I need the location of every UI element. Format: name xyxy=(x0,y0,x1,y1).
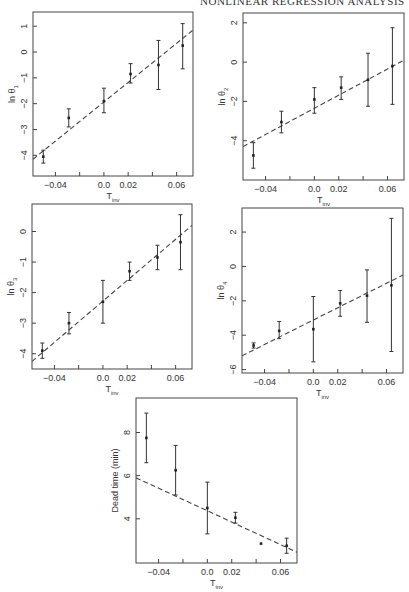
x-tick-label: 0.06 xyxy=(378,377,396,387)
y-tick-label: −4 xyxy=(19,150,29,160)
data-point xyxy=(285,544,288,547)
data-point xyxy=(339,302,342,305)
plot-frame xyxy=(243,13,404,180)
data-point xyxy=(312,328,315,331)
y-axis-label-subscript: 3 xyxy=(12,277,18,281)
x-tick-label: 0.0 xyxy=(308,184,321,194)
data-point xyxy=(157,64,160,67)
y-tick-label: −6 xyxy=(228,364,238,374)
data-point xyxy=(128,270,131,273)
y-axis-label: Dead time (min) xyxy=(110,448,120,512)
y-tick-label: −2 xyxy=(229,96,239,106)
y-axis-label-subscript: 1 xyxy=(13,84,19,88)
x-axis-label-subscript: inv xyxy=(215,584,223,590)
y-tick-label: −4 xyxy=(229,136,239,146)
data-point xyxy=(313,98,316,101)
regression-fit-line xyxy=(243,60,404,146)
data-point xyxy=(67,117,70,120)
x-tick-label: 0.06 xyxy=(168,180,186,190)
x-axis-label: Tinv xyxy=(317,195,330,207)
y-tick-label: 0 xyxy=(18,229,28,234)
panel-theta3: −0.040.00.020.060−1−2−3−4Tinvln θ3 xyxy=(6,204,192,396)
data-point xyxy=(42,155,45,158)
x-tick-label: 0.02 xyxy=(330,184,348,194)
data-point xyxy=(206,507,209,510)
regression-fit-line xyxy=(32,225,192,361)
data-point xyxy=(103,100,106,103)
y-tick-label: −4 xyxy=(18,349,28,359)
data-point xyxy=(260,542,263,545)
y-tick-label: 0 xyxy=(229,60,239,65)
y-tick-label: −1 xyxy=(18,257,28,267)
x-axis-label-subscript: inv xyxy=(111,390,119,396)
data-point xyxy=(252,154,255,157)
regression-fit-line xyxy=(136,478,297,552)
figure-canvas: −0.040.00.020.0610−1−2−3−4Tinvln θ1−0.04… xyxy=(0,0,409,592)
x-tick-label: 0.02 xyxy=(223,567,241,577)
x-tick-label: −0.04 xyxy=(254,184,277,194)
panel-theta2: −0.040.00.020.0620−2−4Tinvln θ2 xyxy=(217,13,404,207)
data-point xyxy=(129,73,132,76)
y-tick-label: −1 xyxy=(19,73,29,83)
data-point xyxy=(179,241,182,244)
plot-frame xyxy=(32,204,192,369)
data-point xyxy=(41,349,44,352)
panel-deadtime: −0.040.00.020.06864TinvDead time (min) xyxy=(110,398,297,590)
regression-fit-line xyxy=(242,275,403,356)
plot-frame xyxy=(242,208,403,373)
y-tick-label: 0 xyxy=(228,264,238,269)
data-point xyxy=(181,44,184,47)
x-tick-label: −0.04 xyxy=(253,377,276,387)
y-tick-label: 2 xyxy=(229,20,239,25)
x-axis-label: Tinv xyxy=(105,384,118,396)
x-tick-label: −0.04 xyxy=(44,180,67,190)
x-tick-label: 0.02 xyxy=(119,180,137,190)
data-point xyxy=(68,322,71,325)
x-tick-label: −0.04 xyxy=(43,373,66,383)
data-point xyxy=(145,437,148,440)
y-axis-label-subscript: 4 xyxy=(222,281,228,285)
x-tick-label: 0.06 xyxy=(379,184,397,194)
y-tick-label: 1 xyxy=(19,24,29,29)
data-point xyxy=(367,79,370,82)
y-axis-label: ln θ2 xyxy=(217,87,229,106)
plot-frame xyxy=(136,398,297,563)
y-axis-label: ln θ4 xyxy=(216,281,228,300)
x-tick-label: 0.02 xyxy=(118,373,136,383)
x-tick-label: 0.0 xyxy=(97,373,110,383)
data-point xyxy=(156,256,159,259)
y-tick-label: 4 xyxy=(122,516,132,521)
data-point xyxy=(102,300,105,303)
x-axis-label: Tinv xyxy=(106,191,119,203)
y-tick-label: −2 xyxy=(228,296,238,306)
y-tick-label: 8 xyxy=(122,430,132,435)
y-tick-label: −4 xyxy=(228,330,238,340)
data-point xyxy=(280,121,283,124)
panel-theta1: −0.040.00.020.0610−1−2−3−4Tinvln θ1 xyxy=(7,12,193,203)
data-point xyxy=(234,516,237,519)
y-tick-label: 6 xyxy=(122,473,132,478)
x-tick-label: 0.02 xyxy=(329,377,347,387)
x-axis-label-subscript: inv xyxy=(322,201,330,207)
data-point xyxy=(278,330,281,333)
y-axis-label-subscript: 2 xyxy=(223,87,229,91)
data-point xyxy=(174,469,177,472)
y-tick-label: −3 xyxy=(18,318,28,328)
panel-theta4: −0.040.00.020.0620−2−4−6Tinvln θ4 xyxy=(216,208,403,400)
y-tick-label: 0 xyxy=(19,50,29,55)
y-tick-label: 2 xyxy=(228,230,238,235)
data-point xyxy=(390,284,393,287)
y-tick-label: −2 xyxy=(18,287,28,297)
plot-frame xyxy=(33,12,193,176)
y-tick-label: −2 xyxy=(19,99,29,109)
y-axis-label: ln θ1 xyxy=(7,84,19,103)
x-tick-label: 0.0 xyxy=(307,377,320,387)
x-axis-label: Tinv xyxy=(210,578,223,590)
data-point xyxy=(340,86,343,89)
regression-fit-line xyxy=(33,30,193,159)
y-axis-label: ln θ3 xyxy=(6,277,18,296)
x-tick-label: 0.0 xyxy=(201,567,214,577)
x-axis-label-subscript: inv xyxy=(321,394,329,400)
x-axis-label-subscript: inv xyxy=(112,197,120,203)
x-tick-label: −0.04 xyxy=(147,567,170,577)
